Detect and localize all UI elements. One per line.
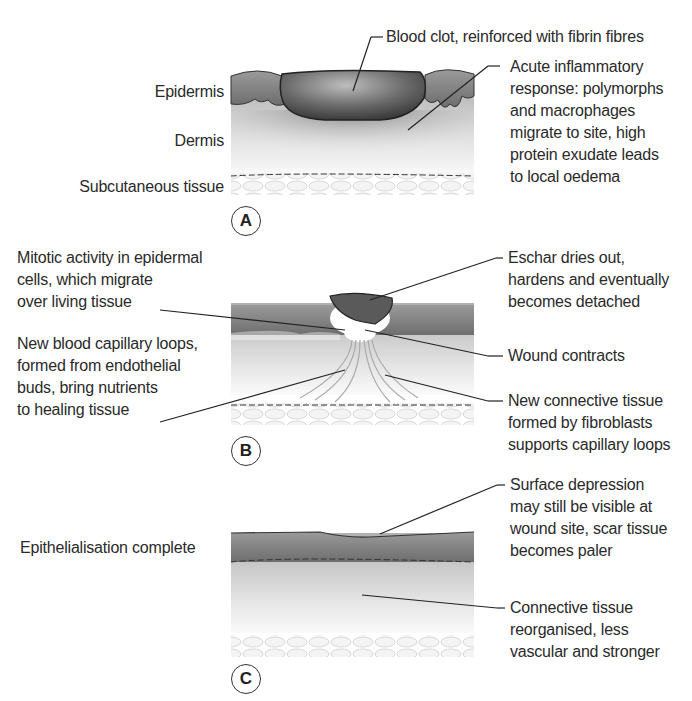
annotation-new-connective-tissue: New connective tissue formed by fibrobla… bbox=[508, 390, 670, 456]
annotation-eschar: Eschar dries out, hardens and eventually… bbox=[508, 247, 669, 313]
label-epithelialisation-complete: Epithelialisation complete bbox=[20, 537, 195, 559]
label-dermis: Dermis bbox=[60, 130, 224, 152]
annotation-capillary-loops: New blood capillary loops, formed from e… bbox=[17, 333, 198, 421]
annotation-wound-contracts: Wound contracts bbox=[508, 345, 625, 367]
panel-badge-a: A bbox=[231, 206, 261, 236]
annotation-connective-tissue-reorganised: Connective tissue reorganised, less vasc… bbox=[510, 597, 660, 663]
panel-c-illustration bbox=[231, 485, 505, 657]
annotation-surface-depression: Surface depression may still be visible … bbox=[510, 474, 667, 562]
panel-a-illustration bbox=[231, 37, 500, 195]
panel-badge-c: C bbox=[231, 664, 261, 694]
annotation-mitotic-activity: Mitotic activity in epidermal cells, whi… bbox=[17, 247, 202, 313]
panel-badge-b: B bbox=[231, 436, 261, 466]
annotation-blood-clot: Blood clot, reinforced with fibrin fibre… bbox=[386, 26, 644, 48]
label-subcutaneous-tissue: Subcutaneous tissue bbox=[20, 176, 224, 198]
annotation-inflammatory-response: Acute inflammatory response: polymorphs … bbox=[510, 56, 663, 188]
panel-b-illustration bbox=[160, 258, 503, 425]
label-epidermis: Epidermis bbox=[60, 81, 224, 103]
